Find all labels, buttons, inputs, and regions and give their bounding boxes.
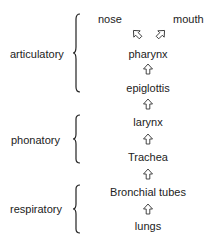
group-label-respiratory: respiratory <box>10 203 62 216</box>
node-pharynx: pharynx <box>128 48 167 61</box>
brace-articulatory <box>72 13 82 93</box>
arrow-to-nose-icon <box>131 28 143 40</box>
group-label-phonatory: phonatory <box>11 134 60 147</box>
brace-phonatory <box>72 114 82 164</box>
arrow-up-icon <box>142 203 154 215</box>
node-larynx: larynx <box>133 116 162 129</box>
node-nose: nose <box>98 13 122 26</box>
node-lungs: lungs <box>135 220 161 233</box>
group-label-articulatory: articulatory <box>10 48 64 61</box>
node-epiglottis: epiglottis <box>126 82 169 95</box>
arrow-up-icon <box>142 63 154 75</box>
brace-respiratory <box>72 184 82 234</box>
node-trachea: Trachea <box>128 151 168 164</box>
node-bronchial-tubes: Bronchial tubes <box>110 186 186 199</box>
node-mouth: mouth <box>173 13 204 26</box>
arrow-to-mouth-icon <box>155 28 167 40</box>
arrow-up-icon <box>142 98 154 110</box>
arrow-up-icon <box>142 168 154 180</box>
arrow-up-icon <box>142 133 154 145</box>
